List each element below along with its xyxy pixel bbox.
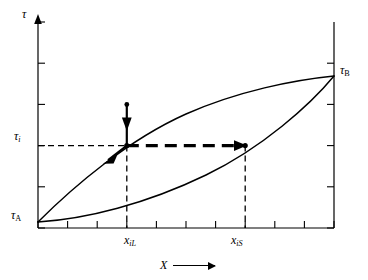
x-il-label: xiL xyxy=(124,234,136,248)
x-axis-arrow-icon xyxy=(173,265,215,266)
x-axis-symbol: X xyxy=(160,258,167,272)
tie-line-arrow xyxy=(127,140,247,151)
y-axis xyxy=(34,14,42,228)
liquidus-curve xyxy=(38,76,334,222)
tau-b-subscript: B xyxy=(344,69,349,78)
cooling-arrowhead xyxy=(122,118,132,132)
liquidus-intersection-dot xyxy=(124,143,129,148)
cooling-arrow-tail-dot xyxy=(124,102,129,107)
x-is-subscript: iS xyxy=(236,239,242,248)
liquidus-tangent-arrowhead xyxy=(103,154,118,164)
tau-a-subscript: A xyxy=(15,214,21,223)
cooling-arrow xyxy=(122,102,132,146)
tau-i-subscript: i xyxy=(18,135,20,144)
liquidus-tangent-arrow xyxy=(103,146,127,164)
y-axis-ticks xyxy=(38,22,45,228)
tau-b-label: τB xyxy=(340,64,350,78)
x-il-subscript: iL xyxy=(129,239,136,248)
tau-i-label: τi xyxy=(14,130,21,144)
right-axis-ticks xyxy=(327,63,334,228)
x-is-label: xiS xyxy=(231,234,243,248)
x-axis-label: X xyxy=(160,259,215,271)
solidus-intersection-dot xyxy=(243,143,248,148)
solidus-curve xyxy=(38,76,334,222)
tau-axis-label: τ xyxy=(22,8,26,20)
phase-diagram-figure: τ τB τi τA xiL xiS X xyxy=(0,0,368,280)
tau-a-label: τA xyxy=(11,209,21,223)
x-axis-ticks xyxy=(38,221,334,228)
phase-diagram-plot xyxy=(0,0,368,280)
